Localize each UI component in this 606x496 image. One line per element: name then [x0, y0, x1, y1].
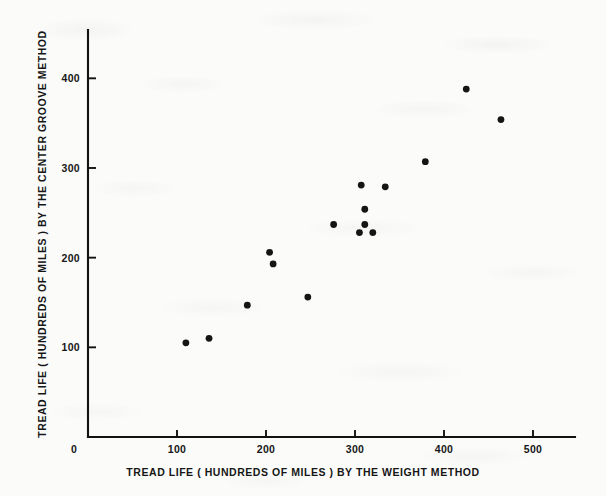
x-axis-title: TREAD LIFE ( HUNDREDS OF MILES ) BY THE …	[0, 466, 606, 478]
data-point	[206, 335, 213, 342]
y-tick-label: 100	[50, 341, 80, 353]
data-point	[358, 182, 365, 189]
data-point	[422, 158, 429, 165]
data-point	[498, 116, 505, 123]
y-tick-label: 400	[50, 72, 80, 84]
data-point	[361, 206, 368, 213]
x-tick-label: 0	[71, 443, 77, 455]
data-point	[361, 221, 368, 228]
y-tick-label: 200	[50, 252, 80, 264]
data-point	[270, 261, 277, 268]
data-point	[382, 183, 389, 190]
data-point	[183, 339, 190, 346]
scatter-plot-figure: 0100200300400500100200300400 TREAD LIFE …	[0, 0, 606, 496]
data-point	[244, 302, 251, 309]
y-axis-title: TREAD LIFE ( HUNDREDS OF MILES ) BY THE …	[36, 24, 48, 444]
x-tick-label: 200	[257, 443, 275, 455]
data-points-group	[183, 86, 505, 347]
data-point	[304, 294, 311, 301]
x-tick-label: 400	[435, 443, 453, 455]
x-tick-label: 300	[346, 443, 364, 455]
ticks-group	[88, 78, 533, 437]
plot-canvas	[0, 0, 606, 496]
y-tick-label: 300	[50, 162, 80, 174]
data-point	[266, 249, 273, 256]
data-point	[369, 229, 376, 236]
data-point	[463, 86, 470, 93]
axes-group	[88, 30, 575, 437]
data-point	[356, 229, 363, 236]
x-tick-label: 500	[524, 443, 542, 455]
x-tick-label: 100	[168, 443, 186, 455]
data-point	[330, 221, 337, 228]
